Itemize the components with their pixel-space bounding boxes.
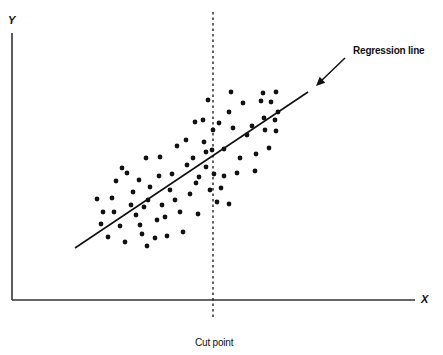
data-point bbox=[262, 116, 267, 121]
data-point bbox=[253, 169, 258, 174]
data-point bbox=[114, 179, 119, 184]
data-point bbox=[274, 129, 279, 134]
data-point bbox=[155, 218, 160, 223]
regression-line-label: Regression line bbox=[353, 45, 424, 56]
data-point bbox=[222, 147, 227, 152]
data-point bbox=[165, 234, 170, 239]
data-point bbox=[163, 215, 168, 220]
data-point bbox=[196, 212, 201, 217]
data-point bbox=[254, 152, 259, 157]
data-point bbox=[120, 166, 125, 171]
data-point bbox=[263, 128, 268, 133]
data-point bbox=[245, 133, 250, 138]
data-point bbox=[197, 175, 202, 180]
data-point bbox=[259, 99, 264, 104]
data-point bbox=[274, 90, 279, 95]
data-point bbox=[110, 196, 115, 201]
data-point bbox=[125, 171, 130, 176]
data-point bbox=[267, 146, 272, 151]
data-point bbox=[95, 197, 100, 202]
data-point bbox=[273, 118, 278, 123]
data-point bbox=[168, 188, 173, 193]
data-point bbox=[112, 210, 117, 215]
data-point bbox=[231, 126, 236, 131]
x-axis-label: X bbox=[421, 293, 428, 305]
data-point bbox=[129, 203, 134, 208]
data-point bbox=[170, 172, 175, 177]
data-point bbox=[160, 203, 165, 208]
data-point bbox=[134, 213, 139, 218]
data-point bbox=[212, 172, 217, 177]
data-point bbox=[194, 181, 199, 186]
data-point bbox=[142, 205, 147, 210]
data-point bbox=[131, 190, 136, 195]
data-point bbox=[204, 165, 209, 170]
data-point bbox=[201, 118, 206, 123]
regression-arrow-icon bbox=[316, 58, 345, 86]
y-axis-label: Y bbox=[8, 14, 15, 26]
regression-line bbox=[75, 92, 308, 248]
data-point bbox=[175, 144, 180, 149]
data-point bbox=[206, 98, 211, 103]
data-point bbox=[227, 202, 232, 207]
data-point bbox=[269, 100, 274, 105]
data-point bbox=[188, 192, 193, 197]
data-point bbox=[157, 174, 162, 179]
data-point bbox=[138, 223, 143, 228]
data-point bbox=[181, 230, 186, 235]
data-point bbox=[261, 91, 266, 96]
data-point bbox=[191, 156, 196, 161]
data-point bbox=[184, 138, 189, 143]
data-point bbox=[202, 140, 207, 145]
data-point bbox=[219, 186, 224, 191]
data-point bbox=[208, 188, 213, 193]
data-point bbox=[222, 174, 227, 179]
data-point bbox=[215, 200, 220, 205]
data-point bbox=[178, 210, 183, 215]
data-point bbox=[276, 110, 281, 115]
data-point bbox=[123, 240, 128, 245]
data-point bbox=[227, 110, 232, 115]
data-point bbox=[140, 232, 145, 237]
data-point bbox=[185, 163, 190, 168]
data-point bbox=[144, 156, 149, 161]
data-point bbox=[211, 128, 216, 133]
data-point bbox=[204, 150, 209, 155]
data-point bbox=[235, 171, 240, 176]
data-point bbox=[148, 185, 153, 190]
data-point bbox=[238, 156, 243, 161]
data-point bbox=[229, 90, 234, 95]
data-point bbox=[193, 120, 198, 125]
data-point bbox=[158, 155, 163, 160]
data-point bbox=[99, 222, 104, 227]
data-point bbox=[250, 124, 255, 129]
data-point bbox=[101, 210, 106, 215]
data-point bbox=[118, 224, 123, 229]
data-point bbox=[217, 121, 222, 126]
data-point bbox=[153, 236, 158, 241]
data-point bbox=[145, 244, 150, 249]
data-point bbox=[241, 101, 246, 106]
data-point bbox=[137, 178, 142, 183]
cut-point-label: Cut point bbox=[195, 337, 233, 348]
data-points bbox=[95, 90, 281, 249]
data-point bbox=[173, 198, 178, 203]
data-point bbox=[106, 235, 111, 240]
data-point bbox=[146, 198, 151, 203]
data-point bbox=[210, 148, 215, 153]
